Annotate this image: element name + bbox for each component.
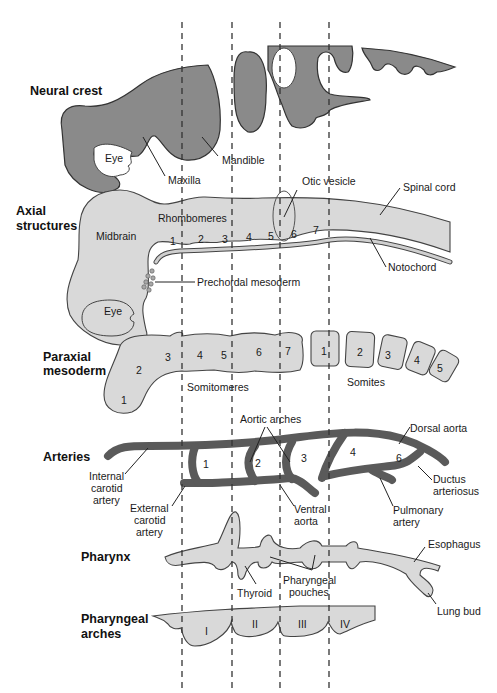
somitomeres-shape	[104, 332, 303, 413]
neural-crest-trunk-crest	[362, 48, 455, 75]
label-pulmonary-2: artery	[393, 516, 421, 528]
label-internal-1: Internal	[89, 470, 124, 482]
label-aortic-arches: Aortic arches	[240, 413, 301, 425]
label-mandible: Mandible	[222, 154, 265, 166]
somite-number-3: 3	[385, 349, 391, 361]
somitomere-4: 4	[197, 349, 203, 361]
pharyngeal-arches-group: Pharyngeal arches I II III IV	[81, 606, 375, 646]
label-eye-axial: Eye	[104, 305, 122, 317]
embryo-segmentation-diagram: Neural crest Eye Maxilla Mandible Axial …	[0, 0, 497, 693]
label-rhombomeres: Rhombomeres	[158, 212, 227, 224]
somitomere-3: 3	[165, 351, 171, 363]
label-ductus-2: arteriosus	[433, 485, 479, 497]
section-title-axial-1: Axial	[16, 204, 46, 218]
label-external-3: artery	[136, 526, 164, 538]
otic-placode-outline	[272, 48, 296, 88]
rhombomere-1: 1	[170, 235, 176, 247]
label-thyroid: Thyroid	[237, 587, 272, 599]
dorsal-aorta	[108, 433, 445, 462]
somitomere-6: 6	[256, 346, 262, 358]
section-title-paraxial-1: Paraxial	[43, 350, 91, 364]
label-maxilla: Maxilla	[168, 174, 201, 186]
label-external-1: External	[130, 502, 169, 514]
arch-numeral-III: III	[298, 618, 307, 630]
arch-number-6: 6	[396, 452, 402, 464]
section-title-arteries: Arteries	[43, 450, 90, 464]
paraxial-mesoderm-group: Paraxial mesoderm 1 2 3 4 5 6 7 Somitome…	[43, 331, 461, 413]
somite-3	[377, 334, 408, 370]
label-ventral-1: Ventral	[294, 503, 327, 515]
somite-number-2: 2	[357, 346, 363, 358]
arch-number-1: 1	[203, 458, 209, 470]
label-internal-3: artery	[93, 494, 121, 506]
label-midbrain: Midbrain	[96, 230, 136, 242]
aortic-arch-1	[192, 447, 198, 482]
somitomere-1: 1	[121, 394, 127, 406]
label-esophagus: Esophagus	[428, 538, 481, 550]
label-external-2: carotid	[134, 514, 166, 526]
rhombomere-4: 4	[246, 231, 252, 243]
section-title-paraxial-2: mesoderm	[43, 364, 106, 378]
somitomere-5: 5	[221, 349, 227, 361]
arch-number-2: 2	[255, 457, 261, 469]
leader-internal-carotid	[125, 448, 148, 474]
label-ventral-2: aorta	[294, 515, 318, 527]
section-title-axial-2: structures	[16, 219, 77, 233]
leader-ventral-aorta	[280, 485, 294, 506]
label-prechordal-mesoderm: Prechordal mesoderm	[197, 276, 301, 288]
section-title-pharynx: Pharynx	[81, 550, 130, 564]
arch-number-4: 4	[350, 446, 356, 458]
label-eye-neural: Eye	[105, 152, 123, 164]
label-dorsal-aorta: Dorsal aorta	[410, 422, 467, 434]
somite-number-1: 1	[321, 345, 327, 357]
section-title-neural-crest: Neural crest	[30, 84, 103, 98]
rhombomere-7: 7	[313, 224, 319, 236]
label-somitomeres: Somitomeres	[187, 381, 249, 393]
label-somites: Somites	[347, 376, 385, 388]
label-ductus-1: Ductus	[433, 473, 466, 485]
leader-thyroid	[245, 566, 256, 584]
rhombomere-3: 3	[222, 233, 228, 245]
arch-number-3: 3	[301, 452, 307, 464]
label-internal-2: carotid	[91, 482, 123, 494]
label-notochord: Notochord	[388, 261, 437, 273]
leader-ductus	[418, 466, 432, 480]
label-pouches-2: pouches	[289, 586, 329, 598]
label-pouches-1: Pharyngeal	[283, 574, 336, 586]
rhombomere-5: 5	[268, 230, 274, 242]
neural-crest-mandible-pharyngeal	[234, 52, 266, 132]
label-lung-bud: Lung bud	[437, 605, 481, 617]
arch-numeral-II: II	[252, 618, 258, 630]
label-spinal-cord: Spinal cord	[403, 181, 456, 193]
neural-crest-group: Neural crest Eye Maxilla Mandible	[30, 46, 455, 192]
somitomere-7: 7	[285, 345, 291, 357]
label-pulmonary-1: Pulmonary	[393, 504, 444, 516]
arch-numeral-I: I	[205, 625, 208, 637]
somitomere-2: 2	[136, 364, 142, 376]
somite-number-4: 4	[414, 354, 420, 366]
somite-number-5: 5	[437, 362, 443, 374]
arch-numeral-IV: IV	[340, 618, 350, 630]
rhombomere-2: 2	[198, 233, 204, 245]
axial-structures-group: Axial structures Midbrain Rhombomeres 1 …	[16, 175, 456, 345]
leader-external-carotid	[172, 486, 185, 506]
arteries-group: Arteries Internal carotid artery Externa…	[43, 413, 479, 538]
section-title-pharyngeal-2: arches	[81, 627, 121, 641]
rhombomere-6: 6	[291, 228, 297, 240]
pulmonary-artery	[372, 470, 392, 480]
section-title-pharyngeal-1: Pharyngeal	[81, 612, 148, 626]
